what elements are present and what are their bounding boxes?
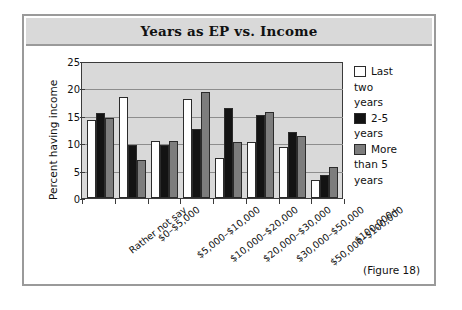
bar-group — [308, 63, 340, 198]
bar — [265, 112, 274, 198]
bar-group — [244, 63, 276, 198]
bar — [160, 145, 169, 198]
bar — [233, 142, 242, 198]
bar — [128, 145, 137, 198]
y-tick-label: 25 — [40, 57, 80, 68]
bar — [288, 132, 297, 198]
bar — [192, 129, 201, 198]
bar — [256, 115, 265, 198]
legend-label-continued: years — [354, 95, 432, 111]
bar — [247, 142, 256, 198]
bar — [169, 141, 178, 198]
bar-group — [84, 63, 116, 198]
bar — [311, 180, 320, 198]
bar — [137, 160, 146, 198]
bar — [215, 158, 224, 198]
legend-label-continued: than 5 — [354, 157, 432, 173]
bar-groups — [82, 63, 342, 198]
bar — [297, 136, 306, 198]
legend-label: 2-5 — [371, 111, 388, 127]
legend-item: 2-5years — [354, 111, 432, 142]
bar — [119, 97, 128, 198]
legend-label-continued: years — [354, 173, 432, 189]
chart-legend: Lasttwoyears2-5yearsMorethan 5years — [354, 64, 432, 188]
legend-label: More — [371, 142, 397, 158]
legend-item: Morethan 5years — [354, 142, 432, 189]
bar — [105, 118, 114, 198]
x-tick-label: $5,000–$10,000 — [194, 204, 262, 260]
legend-label-continued: two — [354, 80, 432, 96]
bar-group — [116, 63, 148, 198]
legend-swatch-icon — [354, 66, 366, 77]
y-tick-label: 15 — [40, 111, 80, 122]
page-title: Years as EP vs. Income — [141, 23, 318, 39]
y-tick-label: 10 — [40, 139, 80, 150]
bar — [329, 167, 338, 198]
legend-swatch-icon — [354, 113, 366, 124]
figure-caption: (Figure 18) — [363, 264, 420, 276]
bar — [320, 175, 329, 198]
bar-group — [276, 63, 308, 198]
legend-label-continued: years — [354, 126, 432, 142]
bar-group — [148, 63, 180, 198]
y-tick-label: 5 — [40, 166, 80, 177]
bar-group — [212, 63, 244, 198]
legend-label: Last — [371, 64, 393, 80]
plot-wrapper: 0510152025 — [81, 62, 343, 199]
bar — [279, 147, 288, 198]
bar — [87, 120, 96, 198]
bar — [224, 108, 233, 198]
bar-group — [180, 63, 212, 198]
legend-item: Lasttwoyears — [354, 64, 432, 111]
bar — [201, 92, 210, 198]
bar — [151, 141, 160, 198]
y-tick-label: 0 — [40, 194, 80, 205]
figure-frame: Years as EP vs. Income Percent having in… — [22, 14, 436, 286]
bar — [96, 113, 105, 198]
chart-title-band: Years as EP vs. Income — [26, 18, 432, 46]
chart-body: Percent having income 0510152025 Rather … — [24, 46, 434, 286]
bar — [183, 99, 192, 198]
legend-swatch-icon — [354, 144, 366, 155]
y-tick-label: 20 — [40, 84, 80, 95]
